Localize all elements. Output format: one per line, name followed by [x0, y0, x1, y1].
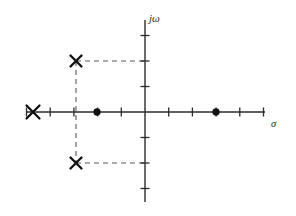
pole-zero-figure: jω σ	[0, 0, 296, 216]
imaginary-axis-label: jω	[147, 12, 160, 24]
pole-zero-plot-canvas: jω σ	[0, 0, 296, 216]
axes-group	[26, 20, 265, 202]
zero-marker	[94, 109, 101, 116]
zero-marker	[213, 109, 220, 116]
real-axis-label: σ	[271, 118, 277, 129]
